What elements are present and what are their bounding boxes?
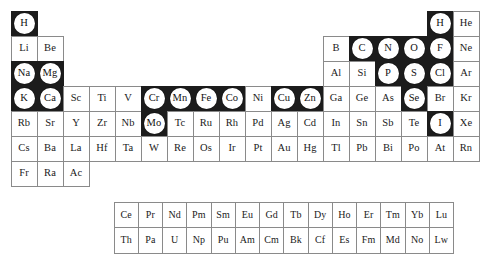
element-cell-zr[interactable]: Zr xyxy=(89,111,116,137)
element-cell-fm[interactable]: Fm xyxy=(356,227,381,254)
element-cell-sn[interactable]: Sn xyxy=(349,111,376,137)
element-cell-he[interactable]: He xyxy=(453,11,480,37)
element-cell-ag[interactable]: Ag xyxy=(271,111,298,137)
element-cell-as[interactable]: As xyxy=(375,86,402,112)
element-cell-lw[interactable]: Lw xyxy=(429,227,454,254)
element-cell-se-marked[interactable]: Se xyxy=(401,86,428,112)
element-cell-no[interactable]: No xyxy=(405,227,430,254)
element-cell-kr[interactable]: Kr xyxy=(453,86,480,112)
element-cell-f-marked[interactable]: F xyxy=(427,36,454,62)
element-cell-ba[interactable]: Ba xyxy=(37,136,64,162)
element-cell-cf[interactable]: Cf xyxy=(308,227,333,254)
element-cell-cl-marked[interactable]: Cl xyxy=(427,61,454,87)
element-cell-ta[interactable]: Ta xyxy=(115,136,142,162)
element-cell-ca-marked[interactable]: Ca xyxy=(37,86,64,112)
element-cell-nb[interactable]: Nb xyxy=(115,111,142,137)
element-cell-lu[interactable]: Lu xyxy=(429,202,454,229)
element-cell-bk[interactable]: Bk xyxy=(283,227,308,254)
element-cell-s-marked[interactable]: S xyxy=(401,61,428,87)
element-cell-ar[interactable]: Ar xyxy=(453,61,480,87)
element-cell-hg[interactable]: Hg xyxy=(297,136,324,162)
element-cell-at[interactable]: At xyxy=(427,136,454,162)
element-cell-ge[interactable]: Ge xyxy=(349,86,376,112)
element-cell-os[interactable]: Os xyxy=(193,136,220,162)
element-cell-pb[interactable]: Pb xyxy=(349,136,376,162)
element-cell-fr[interactable]: Fr xyxy=(11,161,38,187)
element-cell-np[interactable]: Np xyxy=(186,227,211,254)
element-cell-ir[interactable]: Ir xyxy=(219,136,246,162)
element-cell-y[interactable]: Y xyxy=(63,111,90,137)
element-cell-w[interactable]: W xyxy=(141,136,168,162)
element-cell-ru[interactable]: Ru xyxy=(193,111,220,137)
element-cell-ra[interactable]: Ra xyxy=(37,161,64,187)
element-cell-p-marked[interactable]: P xyxy=(375,61,402,87)
element-cell-po[interactable]: Po xyxy=(401,136,428,162)
element-cell-h-marked[interactable]: H xyxy=(427,11,454,37)
element-cell-nd[interactable]: Nd xyxy=(162,202,187,229)
element-cell-cr-marked[interactable]: Cr xyxy=(141,86,168,112)
element-cell-k-marked[interactable]: K xyxy=(11,86,38,112)
element-cell-sc[interactable]: Sc xyxy=(63,86,90,112)
element-cell-si[interactable]: Si xyxy=(349,61,376,87)
element-cell-i-marked[interactable]: I xyxy=(427,111,454,137)
element-cell-u[interactable]: U xyxy=(162,227,187,254)
element-cell-cu-marked[interactable]: Cu xyxy=(271,86,298,112)
element-cell-pa[interactable]: Pa xyxy=(138,227,163,254)
element-cell-hf[interactable]: Hf xyxy=(89,136,116,162)
element-cell-am[interactable]: Am xyxy=(235,227,260,254)
element-cell-pd[interactable]: Pd xyxy=(245,111,272,137)
element-cell-tb[interactable]: Tb xyxy=(283,202,308,229)
element-cell-pr[interactable]: Pr xyxy=(138,202,163,229)
element-cell-te[interactable]: Te xyxy=(401,111,428,137)
element-cell-be[interactable]: Be xyxy=(37,36,64,62)
element-cell-sm[interactable]: Sm xyxy=(211,202,236,229)
element-cell-xe[interactable]: Xe xyxy=(453,111,480,137)
element-cell-la[interactable]: La xyxy=(63,136,90,162)
element-cell-er[interactable]: Er xyxy=(356,202,381,229)
element-cell-al[interactable]: Al xyxy=(323,61,350,87)
element-cell-co-marked[interactable]: Co xyxy=(219,86,246,112)
element-cell-h-marked[interactable]: H xyxy=(11,11,38,37)
element-cell-ho[interactable]: Ho xyxy=(332,202,357,229)
element-cell-rb[interactable]: Rb xyxy=(11,111,38,137)
element-cell-tc[interactable]: Tc xyxy=(167,111,194,137)
element-cell-fe-marked[interactable]: Fe xyxy=(193,86,220,112)
element-cell-re[interactable]: Re xyxy=(167,136,194,162)
element-cell-na-marked[interactable]: Na xyxy=(11,61,38,87)
element-cell-o-marked[interactable]: O xyxy=(401,36,428,62)
element-cell-sb[interactable]: Sb xyxy=(375,111,402,137)
element-cell-c-marked[interactable]: C xyxy=(349,36,376,62)
element-cell-au[interactable]: Au xyxy=(271,136,298,162)
element-cell-n-marked[interactable]: N xyxy=(375,36,402,62)
element-cell-rh[interactable]: Rh xyxy=(219,111,246,137)
element-cell-v[interactable]: V xyxy=(115,86,142,112)
element-cell-pm[interactable]: Pm xyxy=(186,202,211,229)
element-cell-mo-marked[interactable]: Mo xyxy=(141,111,168,137)
element-cell-md[interactable]: Md xyxy=(380,227,405,254)
element-cell-br[interactable]: Br xyxy=(427,86,454,112)
element-cell-ac[interactable]: Ac xyxy=(63,161,90,187)
element-cell-mg-marked[interactable]: Mg xyxy=(37,61,64,87)
element-cell-ni[interactable]: Ni xyxy=(245,86,272,112)
element-cell-rn[interactable]: Rn xyxy=(453,136,480,162)
element-cell-b[interactable]: B xyxy=(323,36,350,62)
element-cell-cm[interactable]: Cm xyxy=(259,227,284,254)
element-cell-pu[interactable]: Pu xyxy=(211,227,236,254)
element-cell-ce[interactable]: Ce xyxy=(114,202,139,229)
element-cell-zn-marked[interactable]: Zn xyxy=(297,86,324,112)
element-cell-ga[interactable]: Ga xyxy=(323,86,350,112)
element-cell-tm[interactable]: Tm xyxy=(380,202,405,229)
element-cell-pt[interactable]: Pt xyxy=(245,136,272,162)
element-cell-in[interactable]: In xyxy=(323,111,350,137)
element-cell-bi[interactable]: Bi xyxy=(375,136,402,162)
element-cell-cs[interactable]: Cs xyxy=(11,136,38,162)
element-cell-es[interactable]: Es xyxy=(332,227,357,254)
element-cell-yb[interactable]: Yb xyxy=(405,202,430,229)
element-cell-cd[interactable]: Cd xyxy=(297,111,324,137)
element-cell-ne[interactable]: Ne xyxy=(453,36,480,62)
element-cell-ti[interactable]: Ti xyxy=(89,86,116,112)
element-cell-tl[interactable]: Tl xyxy=(323,136,350,162)
element-cell-mn-marked[interactable]: Mn xyxy=(167,86,194,112)
element-cell-gd[interactable]: Gd xyxy=(259,202,284,229)
element-cell-th[interactable]: Th xyxy=(114,227,139,254)
